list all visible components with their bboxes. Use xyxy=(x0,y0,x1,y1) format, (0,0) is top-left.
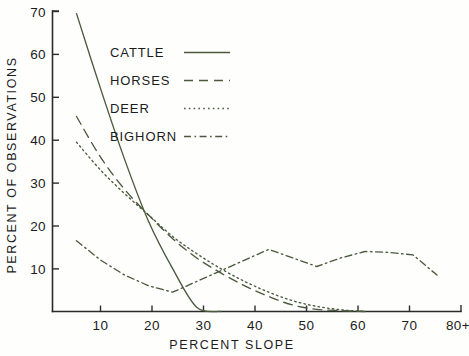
y-tick-label-40: 40 xyxy=(30,133,46,148)
y-ticks-group xyxy=(53,12,60,269)
legend-label-deer: DEER xyxy=(110,101,150,116)
y-tick-label-60: 60 xyxy=(30,47,46,62)
legend: CATTLE HORSES DEER BIGHORN xyxy=(110,45,230,144)
chart-figure: 70 60 50 40 30 20 10 10 20 30 40 50 60 7… xyxy=(0,0,469,356)
y-axis-title: PERCENT OF OBSERVATIONS xyxy=(5,56,19,273)
y-tick-label-70: 70 xyxy=(30,5,46,20)
y-tick-label-20: 20 xyxy=(30,219,46,234)
x-ticks-group xyxy=(101,306,410,312)
x-tick-label-80plus: 80+ xyxy=(446,318,469,333)
legend-label-bighorn: BIGHORN xyxy=(110,129,177,144)
series-line-bighorn xyxy=(77,241,437,292)
legend-label-cattle: CATTLE xyxy=(110,45,164,60)
y-tick-labels-group: 70 60 50 40 30 20 10 xyxy=(30,5,46,277)
x-tick-label-70: 70 xyxy=(402,318,418,333)
line-chart: 70 60 50 40 30 20 10 10 20 30 40 50 60 7… xyxy=(0,0,469,356)
x-tick-label-20: 20 xyxy=(144,318,160,333)
x-tick-label-30: 30 xyxy=(196,318,212,333)
y-tick-label-10: 10 xyxy=(30,262,46,277)
x-tick-label-60: 60 xyxy=(350,318,366,333)
y-tick-label-30: 30 xyxy=(30,176,46,191)
series-line-deer xyxy=(77,142,365,311)
x-tick-label-40: 40 xyxy=(247,318,263,333)
x-tick-labels-group: 10 20 30 40 50 60 70 80+ xyxy=(93,318,469,333)
x-tick-label-10: 10 xyxy=(93,318,109,333)
y-tick-label-50: 50 xyxy=(30,90,46,105)
legend-label-horses: HORSES xyxy=(110,73,170,88)
x-axis-title: PERCENT SLOPE xyxy=(169,338,294,352)
x-tick-label-50: 50 xyxy=(299,318,315,333)
